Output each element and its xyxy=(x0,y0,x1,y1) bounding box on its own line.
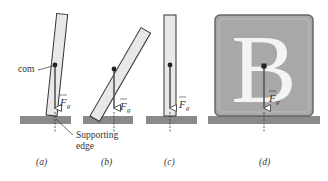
panel-d: B F g xyxy=(208,15,320,132)
com-label: com xyxy=(18,64,34,74)
stability-figure: F g F g F g B F g com xyxy=(0,0,328,181)
com-dot-b xyxy=(112,67,117,72)
panel-a: F g xyxy=(20,14,73,135)
svg-text:g: g xyxy=(276,98,280,106)
caption-a: (a) xyxy=(36,157,47,167)
com-dot-a xyxy=(53,63,58,68)
caption-c: (c) xyxy=(164,157,175,167)
com-dot-c xyxy=(168,63,173,68)
panel-b: F g xyxy=(83,28,151,132)
ground-b xyxy=(83,116,133,124)
ground-a xyxy=(20,116,71,124)
caption-b: (b) xyxy=(101,157,112,167)
com-dot-d xyxy=(262,64,267,69)
svg-text:g: g xyxy=(127,106,131,114)
ground-c xyxy=(146,116,197,124)
supporting-edge-label-line1: Supporting xyxy=(76,130,118,140)
svg-text:g: g xyxy=(67,102,71,110)
panel-c: F g xyxy=(146,15,197,132)
supporting-edge-label-line2: edge xyxy=(76,141,94,151)
force-label-a: F xyxy=(59,96,67,108)
figure-canvas: F g F g F g B F g xyxy=(0,0,328,181)
caption-d: (d) xyxy=(259,157,270,167)
force-label-b: F xyxy=(119,100,127,112)
force-label-c: F xyxy=(178,98,186,110)
force-label-d: F xyxy=(268,92,276,104)
svg-text:g: g xyxy=(186,104,190,112)
